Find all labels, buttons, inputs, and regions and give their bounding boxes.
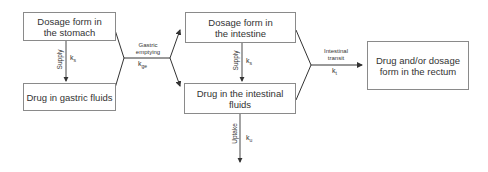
box-label: Dosage form in the stomach	[24, 16, 115, 38]
rate-ks-intestine: ks	[246, 57, 252, 66]
box-drug-gastric-fluids: Drug in gastric fluids	[23, 83, 116, 111]
rate-ks-stomach: ks	[70, 54, 76, 63]
box-drug-rectum: Drug and/or dosage form in the rectum	[367, 41, 469, 90]
rate-kge: kge	[138, 60, 147, 69]
box-label: Drug in gastric fluids	[26, 92, 112, 103]
box-dosage-form-intestine: Dosage form in the intestine	[185, 12, 296, 43]
rate-kt: kt	[332, 67, 337, 76]
box-label: Drug in the intestinal fluids	[185, 88, 295, 110]
intestinal-transit-label: Intestinal transit	[316, 48, 356, 62]
uptake-label: Uptake	[231, 121, 238, 147]
supply-label-stomach: Supply	[56, 48, 63, 72]
box-dosage-form-stomach: Dosage form in the stomach	[23, 12, 116, 41]
box-drug-intestinal-fluids: Drug in the intestinal fluids	[184, 83, 296, 114]
rate-ku: ku	[246, 134, 252, 143]
box-label: Drug and/or dosage form in the rectum	[368, 55, 468, 77]
box-label: Dosage form in the intestine	[186, 17, 295, 39]
gastric-emptying-label: Gastric emptying	[128, 42, 168, 56]
supply-label-intestine: Supply	[232, 49, 239, 73]
